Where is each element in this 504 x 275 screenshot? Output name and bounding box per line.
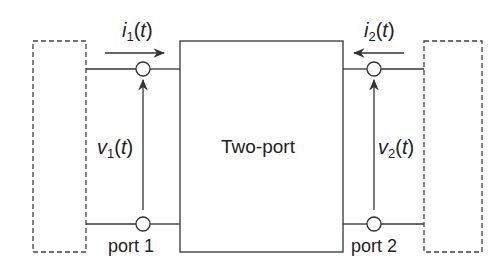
port2-label: port 2 bbox=[351, 237, 397, 255]
v1-var: v bbox=[97, 136, 107, 158]
current-label-i1: i1(t) bbox=[122, 20, 153, 43]
two-port-label: Two-port bbox=[221, 137, 295, 156]
voltage-label-v2: v2(t) bbox=[378, 137, 414, 160]
port1-top-terminal bbox=[136, 62, 150, 76]
v2-var: v bbox=[378, 136, 388, 158]
i1-sub: 1 bbox=[126, 29, 133, 44]
i2-sub: 2 bbox=[368, 29, 375, 44]
port2-bottom-terminal bbox=[367, 217, 381, 231]
port1-bottom-terminal bbox=[136, 217, 150, 231]
right-termination-box bbox=[424, 41, 482, 252]
voltage-label-v1: v1(t) bbox=[97, 137, 133, 160]
port1-label: port 1 bbox=[108, 237, 154, 255]
left-termination-box bbox=[33, 41, 86, 252]
current-label-i2: i2(t) bbox=[364, 20, 395, 43]
port2-top-terminal bbox=[367, 62, 381, 76]
